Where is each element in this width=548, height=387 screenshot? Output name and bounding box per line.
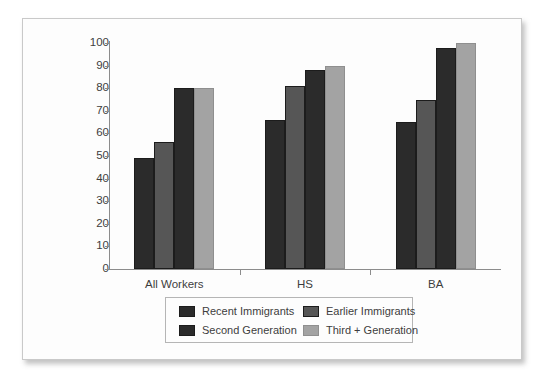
bar	[436, 48, 456, 269]
y-axis-tick-mark	[105, 246, 109, 247]
y-axis-tick-mark	[105, 43, 109, 44]
y-axis-tick-mark	[105, 66, 109, 67]
y-axis-tick-label: 60	[35, 128, 109, 140]
y-axis-tick-label: 70	[35, 105, 109, 117]
y-axis-tick-mark	[105, 224, 109, 225]
y-axis-tick-label: 10	[35, 241, 109, 253]
legend-swatch-icon	[303, 306, 319, 317]
y-axis-tick-label: 80	[35, 82, 109, 94]
bar	[396, 122, 416, 269]
chart-legend: Recent ImmigrantsEarlier ImmigrantsSecon…	[165, 297, 413, 343]
y-axis-tick-label: 50	[35, 150, 109, 162]
bar	[134, 158, 154, 269]
legend-swatch-icon	[303, 325, 319, 336]
legend-item-label: Second Generation	[202, 325, 297, 336]
plot-area: 1009080706050403020100 All WorkersHSBA R…	[23, 19, 523, 361]
bar	[154, 142, 174, 269]
y-axis-tick-label: 90	[35, 60, 109, 72]
x-axis-tick-mark	[240, 270, 241, 275]
y-axis-tick-mark	[105, 269, 109, 270]
legend-row: Recent ImmigrantsEarlier Immigrants	[166, 302, 414, 321]
x-axis-category-label: HS	[297, 278, 313, 290]
legend-item-label: Recent Immigrants	[202, 306, 294, 317]
x-axis-line	[109, 269, 501, 270]
y-axis-tick-label: 40	[35, 173, 109, 185]
legend-swatch-icon	[179, 325, 195, 336]
legend-item[interactable]: Recent Immigrants	[166, 302, 290, 321]
x-axis-category-label: BA	[428, 278, 443, 290]
legend-item[interactable]: Earlier Immigrants	[290, 302, 414, 321]
y-axis-tick-mark	[105, 156, 109, 157]
bar	[194, 88, 214, 269]
y-axis-tick-label: 0	[35, 263, 109, 275]
x-axis-tick-mark	[370, 270, 371, 275]
legend-swatch-icon	[179, 306, 195, 317]
legend-item[interactable]: Second Generation	[166, 321, 290, 340]
legend-row: Second GenerationThird + Generation	[166, 321, 414, 340]
bar	[305, 70, 325, 269]
y-axis-tick-label: 20	[35, 218, 109, 230]
legend-item[interactable]: Third + Generation	[290, 321, 414, 340]
y-axis-tick-mark	[105, 201, 109, 202]
y-axis-tick-label: 100	[35, 37, 109, 49]
bar	[285, 86, 305, 269]
legend-item-label: Third + Generation	[326, 325, 418, 336]
x-axis-category-label: All Workers	[145, 278, 204, 290]
bar	[265, 120, 285, 269]
y-axis-tick-mark	[105, 133, 109, 134]
bar	[456, 43, 476, 269]
bar	[174, 88, 194, 269]
chart-panel: 1009080706050403020100 All WorkersHSBA R…	[22, 18, 522, 360]
legend-item-label: Earlier Immigrants	[326, 306, 415, 317]
y-axis-line	[109, 41, 110, 270]
y-axis-tick-label: 30	[35, 195, 109, 207]
y-axis-tick-mark	[105, 88, 109, 89]
y-axis-tick-mark	[105, 179, 109, 180]
bar	[416, 100, 436, 270]
bar	[325, 66, 345, 269]
y-axis-tick-mark	[105, 111, 109, 112]
